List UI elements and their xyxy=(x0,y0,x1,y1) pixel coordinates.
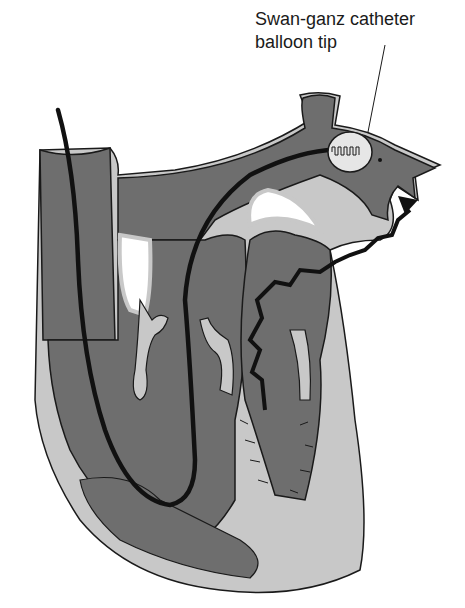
heart-illustration xyxy=(0,0,465,608)
label-line-2: balloon tip xyxy=(255,31,415,54)
heart-diagram: Swan-ganz catheter balloon tip xyxy=(0,0,465,608)
annotation-leader-line xyxy=(368,45,385,132)
label-line-1: Swan-ganz catheter xyxy=(255,8,415,31)
balloon-tip-label: Swan-ganz catheter balloon tip xyxy=(255,8,415,54)
catheter-tip xyxy=(378,158,382,162)
